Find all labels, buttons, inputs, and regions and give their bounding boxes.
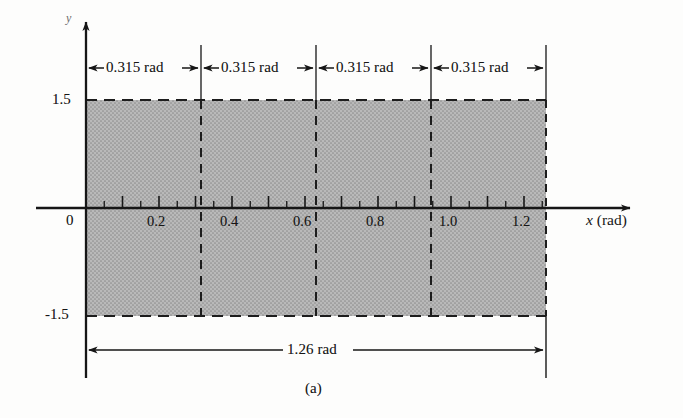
y-tick-label-upper: 1.5 [52, 92, 71, 107]
segment-dimension-label-1: 0.315 rad [221, 60, 279, 75]
segment-dimension-label-0: 0.315 rad [106, 60, 164, 75]
figure-container: y 1.5 -1.5 0 0.2 0.4 0.6 0.8 1.0 1.2 x (… [0, 0, 683, 418]
x-tick-label-2: 0.6 [293, 214, 311, 229]
x-axis-unit: (rad) [597, 211, 627, 228]
x-tick-label-4: 1.0 [439, 214, 457, 229]
y-tick-label-lower: -1.5 [45, 307, 69, 322]
x-axis-symbol: x [586, 211, 593, 228]
total-dimension-label: 1.26 rad [287, 342, 337, 357]
x-axis-label: x (rad) [586, 212, 627, 228]
origin-label: 0 [66, 213, 74, 228]
segment-dimension-label-2: 0.315 rad [336, 60, 394, 75]
figure-caption: (a) [305, 381, 322, 396]
segment-dimension-label-3: 0.315 rad [451, 60, 509, 75]
x-tick-label-1: 0.4 [220, 214, 238, 229]
y-axis-label: y [66, 12, 71, 24]
x-tick-label-3: 0.8 [366, 214, 384, 229]
x-tick-label-0: 0.2 [147, 214, 165, 229]
x-tick-label-5: 1.2 [512, 214, 530, 229]
